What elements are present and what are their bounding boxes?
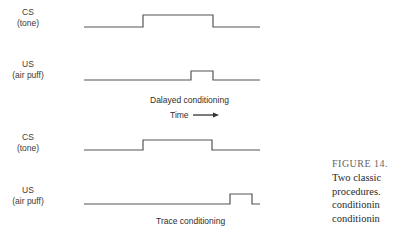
us-waveform-trace [84,194,260,204]
figure-title: FIGURE 14. [332,157,396,171]
time-axis-label: Time [170,110,219,120]
time-label-text: Time [170,110,189,120]
figure-caption: FIGURE 14. Two classic procedures. condi… [332,157,396,225]
right-arrow-icon [193,110,219,120]
figure-caption-line: conditionin [332,212,396,226]
cs-waveform-trace [84,140,260,150]
figure-caption-line: Two classic [332,171,396,185]
trace-conditioning-caption: Trace conditioning [156,216,225,226]
figure-caption-line: procedures. [332,185,396,199]
delayed-conditioning-caption: Dalayed conditioning [150,95,229,105]
us-waveform-delayed [84,71,260,80]
figure-caption-line: conditionin [332,198,396,212]
cs-waveform-delayed [84,15,260,27]
